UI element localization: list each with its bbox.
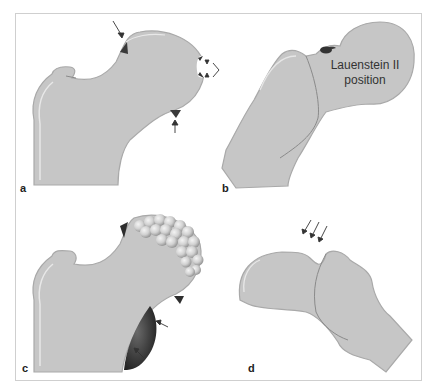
panel-a-femur xyxy=(33,31,213,185)
panel-label-c: c xyxy=(22,362,28,374)
panel-label-d: d xyxy=(248,362,255,374)
panel-c-femur xyxy=(33,214,204,372)
panel-d-femur xyxy=(239,251,412,372)
lauenstein-line-2: position xyxy=(320,73,410,88)
panel-label-b: b xyxy=(222,182,229,194)
panel-d-arrows xyxy=(302,220,327,242)
panel-b-femur xyxy=(222,22,414,188)
lauenstein-line-1: Lauenstein II xyxy=(320,58,410,73)
panel-label-a: a xyxy=(20,182,26,194)
lauenstein-annotation: Lauenstein II position xyxy=(320,58,410,88)
